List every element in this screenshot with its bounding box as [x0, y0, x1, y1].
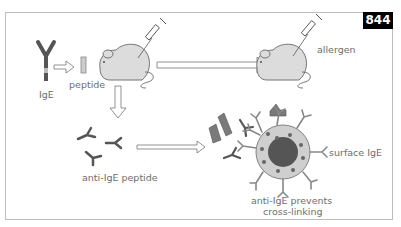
arrow-down-icon	[110, 86, 126, 118]
mouse-allergen-icon	[257, 44, 311, 88]
ige-label: IgE	[39, 89, 54, 100]
ige-antibody-icon	[38, 42, 54, 81]
diagram-canvas: IgE peptide allergen anti-IgE peptide	[0, 0, 401, 227]
anti-ige-antibodies-icon	[78, 128, 121, 165]
arrow-right-small-icon	[54, 61, 74, 73]
mast-cell-icon	[256, 125, 310, 179]
syringe-icon	[138, 18, 166, 58]
arrow-right-to-cell-icon	[137, 141, 205, 153]
allergen-label: allergen	[317, 44, 356, 55]
arrow-right-long-icon	[157, 57, 266, 73]
mouse-immunized-icon	[100, 44, 154, 88]
peptide-label: peptide	[69, 79, 105, 90]
surface-ige-label: surface IgE	[329, 147, 382, 158]
peptide-fragment-icon	[81, 57, 86, 73]
anti-ige-peptide-label: anti-IgE peptide	[82, 172, 158, 183]
prevents-label-line1: anti-IgE prevents	[251, 195, 332, 206]
prevents-label-line2: cross-linking	[263, 206, 323, 217]
